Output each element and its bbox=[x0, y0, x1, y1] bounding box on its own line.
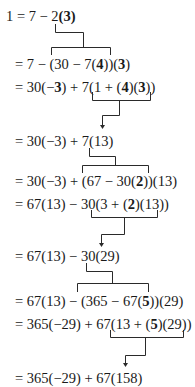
simplify-connector bbox=[126, 338, 146, 365]
arrow-down-icon bbox=[123, 363, 128, 367]
substitute-connector bbox=[56, 24, 84, 48]
simplify-bracket bbox=[111, 330, 184, 338]
simplify-bracket bbox=[93, 92, 151, 101]
substitution-bracket bbox=[83, 166, 149, 174]
simplify-connector bbox=[102, 218, 125, 245]
simplify-bracket bbox=[92, 210, 158, 218]
arrow-down-icon bbox=[100, 125, 105, 129]
simplify-connector bbox=[103, 101, 120, 127]
substitute-connector bbox=[87, 263, 113, 284]
bracket-connectors bbox=[0, 0, 195, 387]
substitute-connector bbox=[90, 148, 116, 166]
arrow-down-icon bbox=[99, 243, 104, 247]
substitution-bracket bbox=[78, 284, 149, 293]
substitution-bracket bbox=[52, 48, 111, 56]
